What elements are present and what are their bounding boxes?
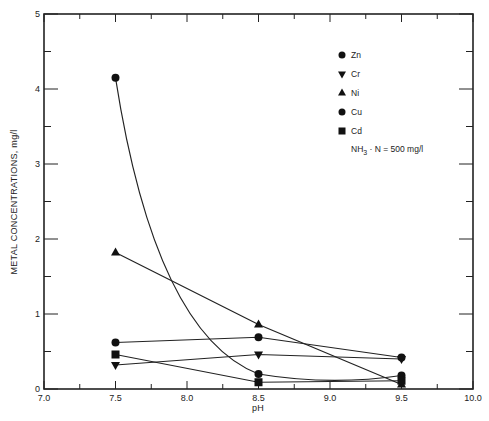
plot-frame	[44, 14, 473, 389]
x-tick-label: 8.5	[252, 393, 265, 403]
data-point-marker	[112, 74, 120, 82]
legend-label: Cr	[351, 69, 360, 79]
legend-label: Cu	[351, 107, 362, 117]
legend-label: Cd	[351, 126, 362, 136]
data-point-marker	[398, 354, 406, 362]
legend: ZnCrNiCuCdNH3 · N = 500 mg/l	[338, 50, 423, 156]
x-axis-title: pH	[252, 403, 264, 413]
series-line	[116, 253, 402, 385]
x-tick-label: 9.5	[395, 393, 408, 403]
legend-item-cr: Cr	[338, 69, 360, 79]
metal-concentration-chart: 7.07.58.08.59.09.510.0012345 ZnCrNiCuCdN…	[0, 0, 489, 421]
data-point-marker	[255, 378, 263, 386]
data-point-marker	[255, 333, 263, 341]
data-point-marker	[254, 352, 263, 360]
series-lines	[111, 74, 406, 388]
legend-item-zn: Zn	[339, 50, 362, 60]
data-point-marker	[111, 362, 120, 370]
y-tick-label: 4	[35, 84, 40, 94]
data-point-marker	[111, 248, 120, 256]
data-point-marker	[339, 52, 346, 59]
x-tick-label: 10.0	[464, 393, 482, 403]
data-point-marker	[339, 128, 346, 135]
y-tick-label: 3	[35, 159, 40, 169]
y-tick-label: 5	[35, 9, 40, 19]
y-tick-label: 2	[35, 234, 40, 244]
legend-annotation: NH3 · N = 500 mg/l	[351, 144, 423, 156]
legend-item-ni: Ni	[338, 88, 359, 98]
x-tick-label: 8.0	[181, 393, 194, 403]
x-tick-label: 7.0	[38, 393, 51, 403]
legend-label: Ni	[351, 88, 359, 98]
series-ni	[111, 248, 406, 388]
y-tick-label: 1	[35, 309, 40, 319]
data-point-marker	[112, 339, 120, 347]
legend-item-cd: Cd	[339, 126, 363, 136]
legend-item-cu: Cu	[339, 107, 363, 117]
data-point-marker	[255, 370, 263, 378]
x-tick-label: 9.0	[324, 393, 337, 403]
data-point-marker	[338, 89, 346, 96]
x-tick-label: 7.5	[109, 393, 122, 403]
legend-label: Zn	[351, 50, 361, 60]
y-axis-title: METAL CONCENTRATIONS, mg/l	[9, 129, 19, 274]
data-point-marker	[398, 377, 406, 385]
data-point-marker	[339, 109, 346, 116]
data-point-marker	[112, 351, 120, 359]
y-tick-label: 0	[35, 384, 40, 394]
data-point-marker	[338, 72, 346, 79]
axes: 7.07.58.08.59.09.510.0012345	[35, 9, 482, 403]
